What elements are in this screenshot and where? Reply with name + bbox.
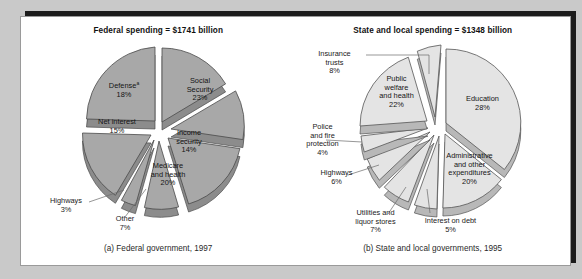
state-local-spending-chart: State and local spending = $1348 billion bbox=[296, 17, 571, 265]
federal-chart-caption: (a) Federal government, 1997 bbox=[21, 244, 296, 253]
federal-pie-stage bbox=[21, 17, 296, 265]
state-local-chart-caption: (b) State and local governments, 1995 bbox=[296, 244, 571, 253]
federal-pie-svg bbox=[21, 17, 297, 267]
figure-panel: Federal spending = $1741 billion bbox=[20, 16, 571, 266]
state-local-pie-svg bbox=[296, 17, 572, 267]
leader-police-and-fire bbox=[326, 140, 362, 142]
state-local-pie-stage bbox=[296, 17, 571, 265]
state-local-slices bbox=[360, 45, 521, 217]
slice-public-welfare-and-health[interactable] bbox=[360, 57, 427, 134]
federal-slices bbox=[82, 47, 244, 217]
slice-defense[interactable] bbox=[87, 47, 156, 129]
federal-spending-chart: Federal spending = $1741 billion bbox=[21, 17, 296, 265]
slice-medicare-and-health[interactable] bbox=[168, 138, 240, 212]
